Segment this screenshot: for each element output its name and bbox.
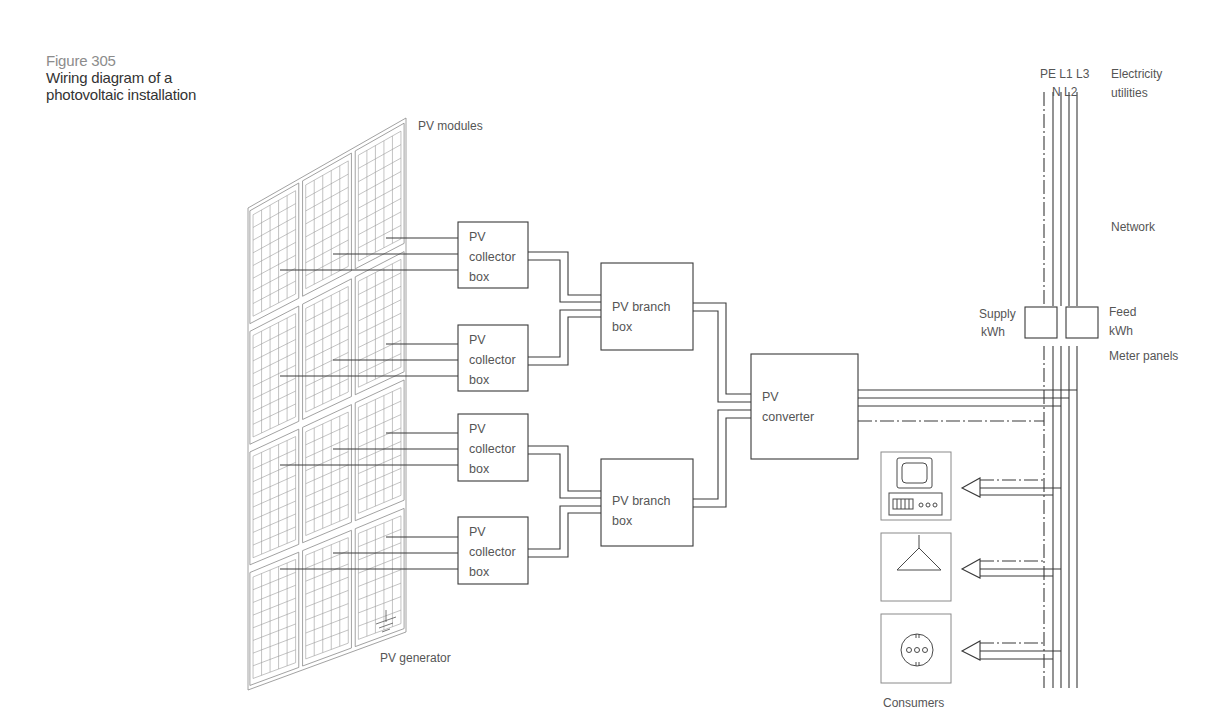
collector-box-4: PV collector box: [458, 517, 528, 584]
supply-meter-label-line2: kWh: [981, 325, 1005, 339]
network-label: Network: [1111, 220, 1156, 234]
supply-meter-label-line1: Supply: [979, 307, 1016, 321]
consumer-socket: [881, 614, 951, 683]
collector-box-1: PV collector box: [458, 222, 528, 288]
supply-meter: [1025, 307, 1057, 338]
svg-text:box: box: [469, 565, 490, 579]
branch-converter-wires: [693, 303, 751, 507]
svg-text:PV branch: PV branch: [612, 494, 670, 508]
svg-text:collector: collector: [469, 442, 516, 456]
svg-text:collector: collector: [469, 250, 516, 264]
svg-text:PV: PV: [469, 230, 486, 244]
svg-text:collector: collector: [469, 545, 516, 559]
svg-text:box: box: [469, 270, 490, 284]
svg-text:PV: PV: [469, 525, 486, 539]
collector-branch-wires: [528, 252, 601, 557]
wiring-diagram: PV modules PV generator: [0, 0, 1208, 728]
branch-box-1: PV branch box: [601, 263, 693, 350]
pv-array: [248, 118, 406, 690]
svg-text:PV: PV: [469, 333, 486, 347]
svg-text:box: box: [612, 514, 633, 528]
meter-panels-label: Meter panels: [1109, 349, 1178, 363]
consumers-label: Consumers: [883, 696, 944, 710]
feed-meter: [1066, 307, 1098, 338]
feed-meter-label-line1: Feed: [1109, 305, 1136, 319]
svg-text:box: box: [469, 462, 490, 476]
svg-text:converter: converter: [762, 410, 814, 424]
pv-converter: PV converter: [751, 354, 858, 459]
meter-panels: [1025, 307, 1098, 338]
svg-text:PV: PV: [762, 390, 779, 404]
branch-box-2: PV branch box: [601, 459, 693, 546]
pv-generator-label: PV generator: [380, 651, 451, 665]
collector-box-3: PV collector box: [458, 414, 528, 481]
consumer-feed-wires: [962, 478, 1061, 660]
svg-text:PV branch: PV branch: [612, 300, 670, 314]
module-wires: [280, 238, 458, 569]
electricity-utilities-label-line1: Electricity: [1111, 67, 1162, 81]
svg-text:box: box: [612, 320, 633, 334]
conductors-label-top: PE L1 L3: [1040, 67, 1090, 81]
feed-meter-label-line2: kWh: [1109, 324, 1133, 338]
svg-text:PV: PV: [469, 422, 486, 436]
consumer-computer: [881, 452, 951, 520]
pv-modules-label: PV modules: [418, 119, 483, 133]
electricity-utilities-label-line2: utilities: [1111, 86, 1148, 100]
conductors-label-bottom: N L2: [1052, 85, 1078, 99]
svg-text:box: box: [469, 373, 490, 387]
collector-box-2: PV collector box: [458, 325, 528, 391]
consumer-lamp: [881, 533, 951, 601]
svg-text:collector: collector: [469, 353, 516, 367]
